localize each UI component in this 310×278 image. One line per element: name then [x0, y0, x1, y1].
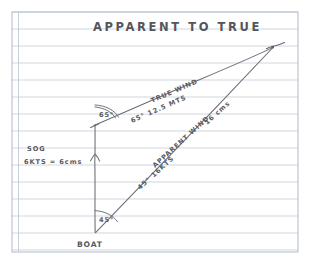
- boat-label: BOAT: [77, 240, 103, 249]
- sog-label-line1: SOG: [27, 145, 45, 153]
- notepaper-diagram: APPARENT TO TRUE TRUE WIND 65° 12.5 MTS …: [0, 0, 310, 278]
- diagram-title: APPARENT TO TRUE: [93, 20, 262, 34]
- sog-label-line2: 6KTS = 6cms: [24, 158, 82, 166]
- angle-label-45: 45°: [99, 216, 114, 224]
- apparent-wind-length-label: 16 cms: [203, 99, 232, 126]
- apparent-wind-name-label: APPARENT WIND: [151, 114, 211, 169]
- ruled-lines: [12, 12, 298, 250]
- angle-label-65: 65°: [99, 111, 114, 119]
